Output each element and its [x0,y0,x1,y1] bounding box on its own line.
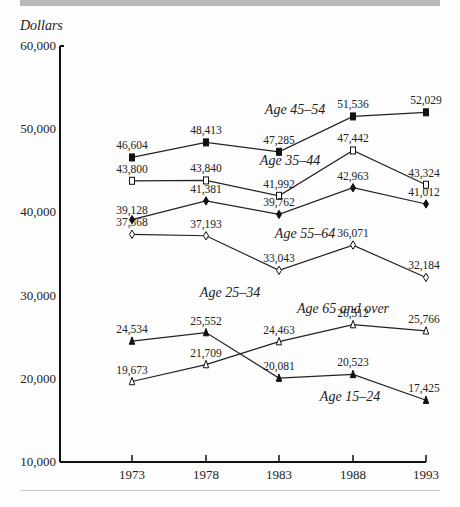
data-label: 32,184 [408,259,440,272]
series-label: Age 35–44 [259,153,320,168]
diamond-marker-icon [204,197,209,205]
data-label: 41,012 [408,186,440,199]
diamond-marker-icon [204,232,209,240]
diamond-marker-icon [351,184,356,192]
data-label: 24,463 [263,324,295,337]
x-tick-label: 1983 [266,467,292,482]
diamond-marker-icon [351,241,356,249]
y-tick-label: 60,000 [20,38,56,53]
square-marker-icon [204,139,209,146]
data-label: 52,029 [410,94,442,107]
data-label: 21,709 [190,347,222,360]
data-label: 37,193 [190,218,222,231]
y-tick-label: 10,000 [20,454,56,469]
data-label: 39,762 [263,196,295,209]
square-marker-icon [130,154,135,161]
y-tick-label: 50,000 [20,121,56,136]
square-marker-icon [351,113,356,120]
x-tick-label: 1988 [340,467,366,482]
y-tick-label: 40,000 [20,204,56,219]
diamond-marker-icon [277,266,282,274]
data-label: 39,128 [116,204,148,217]
data-label: 46,604 [116,139,148,152]
y-tick-label: 30,000 [20,288,56,303]
data-label: 20,081 [263,360,295,373]
diamond-marker-icon [424,200,429,208]
data-label: 24,534 [116,323,148,336]
x-tick-label: 1993 [413,467,439,482]
data-label: 43,800 [116,163,148,176]
data-label: 43,324 [408,167,440,180]
data-label: 41,992 [263,178,295,191]
data-label: 43,840 [190,162,222,175]
data-label: 48,413 [190,124,222,137]
data-label: 51,536 [337,98,369,111]
series-label: Age 65 and over [296,301,390,316]
series-label: Age 25–34 [199,285,260,300]
data-label: 25,552 [190,315,222,328]
square-marker-icon [130,177,135,184]
series-label: Age 15–24 [319,389,380,404]
x-tick-label: 1978 [193,467,219,482]
diamond-marker-icon [130,230,135,238]
square-marker-icon [351,147,356,154]
data-label: 25,766 [408,313,440,326]
x-tick-label: 1973 [119,467,145,482]
diamond-marker-icon [277,210,282,218]
data-label: 17,425 [408,382,440,395]
data-label: 33,043 [263,252,295,265]
triangle-marker-icon [203,328,208,335]
data-label: 47,285 [263,134,295,147]
data-label: 37,368 [116,216,148,229]
data-label: 20,523 [337,356,369,369]
data-label: 41,381 [190,183,222,196]
line-chart: 10,00020,00030,00040,00050,00060,0001973… [0,0,460,507]
data-label: 47,442 [337,132,369,145]
y-tick-label: 20,000 [20,371,56,386]
data-label: 36,071 [337,227,369,240]
data-label: 19,673 [116,364,148,377]
series-label: Age 45–54 [264,102,325,117]
diamond-marker-icon [424,273,429,281]
data-label: 42,963 [337,170,369,183]
square-marker-icon [424,109,429,116]
triangle-marker-icon [350,320,355,327]
series-label: Age 55–64 [274,226,335,241]
